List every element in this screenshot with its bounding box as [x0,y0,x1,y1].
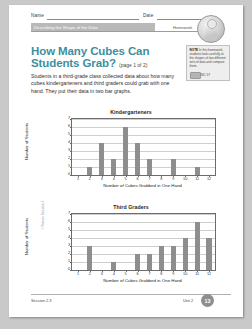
x-tick-label: 3 [98,177,106,181]
x-tick-label: 6 [134,272,142,276]
bar [159,246,164,270]
y-tick-label: 3 [65,244,70,248]
y-tick-label: 6 [65,220,70,224]
footer-divider [31,294,231,295]
bar [99,143,104,175]
bar [135,143,140,175]
unit-banner-label: Describing the Shape of the Data [34,25,98,30]
footer-session: Session 2.3 [31,298,51,303]
date-label: Date [143,13,154,18]
y-tick-label: 4 [65,236,70,240]
y-tick-label: 7 [65,212,70,216]
workbook-chip-icon [190,72,201,79]
x-tick-label: 10 [181,177,189,181]
x-axis-label: Number of Cubes Grabbed in One Hand [71,183,214,188]
chart-title: Third Graders [31,204,231,210]
chart-title: Kindergarteners [31,109,231,115]
y-tick-label: 5 [65,228,70,232]
y-tick-label: 0 [65,268,70,272]
bar [147,254,152,270]
bar [87,246,92,270]
page-number-badge: 13 [201,294,214,307]
x-tick-label: 7 [145,272,153,276]
y-tick-label: 2 [65,157,70,161]
x-tick-label: 11 [193,177,201,181]
bar [135,254,140,270]
footer-unit: Unit 2 [183,298,193,303]
x-tick-label: 7 [145,177,153,181]
bar [171,246,176,270]
x-tick-label: 10 [181,272,189,276]
bar [147,159,152,175]
y-tick-label: 6 [65,125,70,129]
x-tick-label: 2 [86,272,94,276]
x-tick-label: 9 [169,272,177,276]
worksheet-page: Name Date Describing the Shape of the Da… [9,5,243,317]
y-tick-label: 1 [65,260,70,264]
bar [183,238,188,270]
portrait-head-shape [207,19,217,29]
bar [195,167,200,175]
publisher-credit: © Pearson Education 3 [41,187,45,243]
x-tick-label: 11 [193,272,201,276]
x-tick-label: 5 [122,272,130,276]
note-standard: NC 57 [201,73,210,77]
page-title: How Many Cubes Can Students Grab? (page … [31,46,171,72]
x-tick-label: 5 [122,177,130,181]
x-tick-label: 2 [86,177,94,181]
x-tick-label: 1 [74,272,82,276]
bar [123,127,128,175]
page-of-label: (page 1 of 2) [119,62,147,68]
intro-paragraph: Students in a third-grade class collecte… [31,73,181,95]
bar [171,159,176,175]
bar [111,159,116,175]
date-write-line[interactable] [157,19,205,20]
note-body: NOTE In this homework, students look car… [190,48,227,68]
x-tick-label: 1 [74,177,82,181]
y-tick-label: 1 [65,165,70,169]
x-tick-label: 6 [134,177,142,181]
note-box: NOTE In this homework, students look car… [186,45,230,81]
x-tick-label: 8 [157,272,165,276]
x-tick-label: 12 [205,272,213,276]
y-tick-label: 7 [65,117,70,121]
x-tick-label: 9 [169,177,177,181]
student-portrait-icon [197,15,225,43]
y-axis-label: Number of Students [24,213,29,261]
bar [195,222,200,270]
y-tick-label: 3 [65,149,70,153]
homework-label: Homework [173,25,192,30]
x-tick-label: 4 [110,177,118,181]
x-tick-label: 12 [205,177,213,181]
y-axis-label: Number of Students [24,118,29,166]
plot-area: 01234567123456789101112 [71,213,216,271]
x-tick-label: 4 [110,272,118,276]
x-tick-label: 3 [98,272,106,276]
y-tick-label: 4 [65,141,70,145]
bar [206,238,211,270]
y-tick-label: 5 [65,133,70,137]
name-label: Name [31,13,44,18]
bar [111,262,116,270]
plot-area: 01234567123456789101112 [71,118,216,176]
y-tick-label: 2 [65,252,70,256]
y-tick-label: 0 [65,173,70,177]
x-axis-label: Number of Cubes Grabbed in One Hand [71,278,214,283]
bar [87,167,92,175]
name-write-line[interactable] [47,19,139,20]
x-tick-label: 8 [157,177,165,181]
unit-banner: Describing the Shape of the Data [31,23,155,31]
header-divider [31,31,199,32]
